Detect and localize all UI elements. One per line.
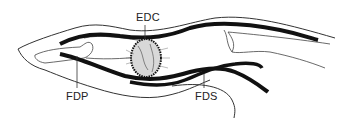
label-edc: EDC [136, 12, 160, 23]
label-fdp: FDP [66, 91, 89, 102]
label-fds: FDS [195, 91, 218, 102]
finger-anatomy-diagram [0, 0, 342, 123]
extensor-tendon [60, 24, 318, 44]
edc-lesion [126, 39, 170, 77]
joint-line [224, 30, 232, 52]
